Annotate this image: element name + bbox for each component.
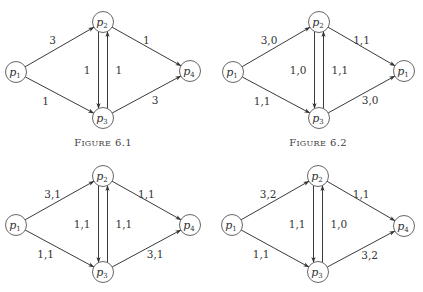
node-p2: p2 [308, 166, 329, 187]
edge-weight-p3-p2: 1,1 [332, 64, 349, 76]
fig-6-3: 3,11,11,11,11,13,1p1p2p3p4 [6, 166, 201, 283]
edges: 3,11,11,11,11,13,1 [25, 181, 181, 267]
edge-weight-p3-p4: 3 [152, 94, 159, 106]
edge-weight-p2-p3: 1,1 [289, 218, 306, 230]
node-p4: p1 [394, 61, 415, 82]
node-p2: p2 [93, 166, 114, 187]
edge-weight-p1-p2: 3,0 [261, 34, 278, 46]
edge-weight-p1-p3: 1,1 [37, 248, 54, 260]
edge-p1-p3 [242, 77, 309, 113]
edge-weight-p2-p3: 1 [84, 64, 91, 76]
fig-6-1: 311113p1p2p3p4 [6, 12, 201, 129]
edge-weight-p1-p2: 3 [49, 34, 56, 46]
edge-weight-p2-p4: 1 [143, 34, 150, 46]
node-p1: p1 [223, 62, 244, 83]
flow-network-figures: 311113p1p2p3p43,01,11,01,11,13,0p1p2p3p1… [0, 0, 423, 292]
node-p1: p1 [222, 215, 243, 236]
edge-weight-p3-p4: 3,0 [362, 94, 379, 106]
fig-6-2: 3,01,11,01,11,13,0p1p2p3p1 [223, 12, 415, 129]
node-p2: p2 [309, 12, 330, 33]
edge-p1-p2 [25, 27, 94, 67]
figures-root: 311113p1p2p3p43,01,11,01,11,13,0p1p2p3p1… [6, 12, 415, 283]
edge-p1-p3 [241, 230, 309, 267]
edge-weight-p3-p4: 3,2 [361, 249, 378, 261]
edge-weight-p1-p2: 3,2 [260, 188, 277, 200]
nodes: p1p2p3p4 [6, 166, 201, 283]
edge-weight-p1-p2: 3,1 [44, 188, 61, 200]
node-p1: p1 [6, 215, 27, 236]
nodes: p1p2p3p4 [6, 12, 201, 129]
node-p4: p4 [180, 215, 201, 236]
node-p3: p3 [308, 262, 329, 283]
figure-caption: FIGURE6.1 [74, 137, 132, 148]
node-p3: p3 [309, 108, 330, 129]
nodes: p1p2p3p1 [223, 12, 415, 129]
node-p3: p3 [93, 262, 114, 283]
edge-p2-p4 [327, 181, 395, 220]
edges: 3,21,11,11,01,13,2 [241, 181, 395, 267]
edge-p1-p3 [25, 77, 93, 113]
edges: 3,01,11,01,11,13,0 [242, 27, 395, 113]
node-p4: p4 [394, 216, 415, 237]
node-p2: p2 [93, 12, 114, 33]
edge-p1-p2 [242, 27, 310, 66]
edge-weight-p1-p3: 1,1 [253, 248, 270, 260]
edge-weight-p3-p4: 3,1 [147, 248, 164, 260]
edge-weight-p2-p4: 1,1 [138, 188, 155, 200]
edge-p1-p3 [25, 230, 94, 267]
edge-weight-p2-p4: 1,1 [353, 34, 370, 46]
node-p4: p4 [180, 61, 201, 82]
edge-weight-p3-p2: 1,0 [331, 218, 348, 230]
edge-weight-p2-p3: 1,0 [290, 64, 307, 76]
edge-weight-p3-p2: 1 [116, 64, 123, 76]
edge-weight-p3-p2: 1,1 [116, 218, 133, 230]
figure-caption: FIGURE6.2 [289, 137, 347, 148]
edge-weight-p1-p3: 1 [42, 95, 49, 107]
node-p3: p3 [93, 108, 114, 129]
node-p1: p1 [6, 62, 27, 83]
edge-weight-p2-p3: 1,1 [74, 218, 91, 230]
fig-6-4: 3,21,11,11,01,13,2p1p2p3p4 [222, 166, 415, 283]
edge-weight-p2-p4: 1,1 [353, 188, 370, 200]
edge-p3-p4 [112, 76, 181, 113]
edges: 311113 [25, 27, 181, 113]
nodes: p1p2p3p4 [222, 166, 415, 283]
edge-weight-p1-p3: 1,1 [254, 95, 271, 107]
